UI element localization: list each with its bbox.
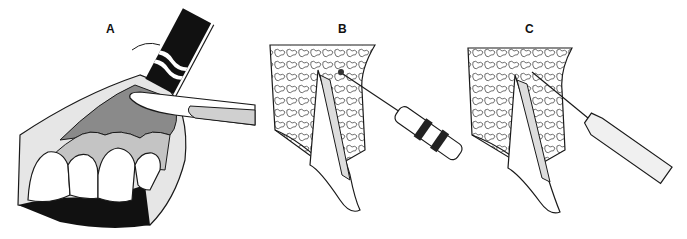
panel-c: C bbox=[460, 0, 687, 239]
tooth-cross-section-c bbox=[460, 0, 687, 239]
tooth-cross-section-b bbox=[250, 0, 470, 239]
panel-b: B bbox=[250, 0, 470, 239]
anterior-teeth-illustration bbox=[0, 0, 260, 239]
panel-a: A bbox=[0, 0, 260, 239]
